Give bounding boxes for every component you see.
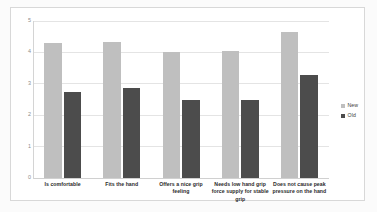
bar-old-4: [241, 100, 259, 179]
bar-new-1: [44, 43, 62, 178]
legend-label-new: New: [348, 103, 359, 108]
page-canvas: 012345 Is comfortableFits the handOffers…: [0, 0, 377, 212]
legend-label-old: Old: [348, 113, 356, 118]
y-axis-tick-labels: 012345: [11, 21, 31, 178]
category-label-5: Does not cause peak pressure on the hand: [271, 181, 328, 196]
y-tick-label-1: 1: [15, 144, 31, 149]
y-tick-label-3: 3: [15, 81, 31, 86]
bar-old-1: [64, 92, 82, 178]
bar-new-5: [281, 32, 299, 178]
y-tick-label-5: 5: [15, 18, 31, 23]
category-label-4: Needs low hand grip force supply for sta…: [212, 181, 269, 203]
bar-new-3: [163, 52, 181, 178]
y-tick-label-4: 4: [15, 50, 31, 55]
bar-old-3: [182, 100, 200, 178]
y-tick-label-0: 0: [15, 175, 31, 180]
category-label-2: Fits the hand: [93, 181, 150, 188]
legend-swatch-old-icon: [341, 114, 345, 118]
legend-item-new[interactable]: New: [341, 101, 373, 111]
chart-frame: 012345 Is comfortableFits the handOffers…: [10, 7, 365, 201]
plot-area: [33, 21, 329, 178]
bar-new-2: [103, 42, 121, 178]
y-tick-label-2: 2: [15, 112, 31, 117]
chart-legend: NewOld: [341, 101, 373, 121]
category-label-3: Offers a nice grip feeling: [152, 181, 209, 196]
legend-swatch-new-icon: [341, 104, 345, 108]
bar-old-5: [300, 75, 318, 178]
category-label-1: Is comfortable: [34, 181, 91, 188]
bar-old-2: [123, 88, 141, 178]
x-axis-category-labels: Is comfortableFits the handOffers a nice…: [33, 181, 329, 212]
legend-item-old[interactable]: Old: [341, 111, 373, 121]
bar-new-4: [222, 51, 240, 178]
